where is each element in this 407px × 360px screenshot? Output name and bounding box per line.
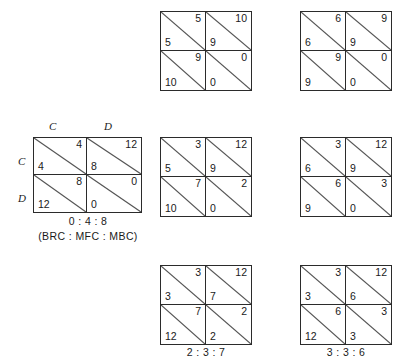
matrix-row: 4 4 12 8 — [34, 138, 141, 175]
cell-value-top-right: 3 — [335, 139, 341, 151]
matrix-row: 6 6 9 9 — [301, 12, 391, 51]
caption-ratio: 2 : 3 : 7 — [160, 346, 252, 358]
matrix-row: 5 5 10 9 — [161, 12, 251, 51]
matrix-grid: 4 4 12 8 8 12 — [33, 137, 142, 213]
cell-value-bottom-left: 3 — [165, 291, 171, 303]
matrix-cell: 5 5 — [161, 12, 206, 51]
matrix-row: 7 10 2 0 — [161, 177, 251, 216]
cell-value-top-right: 12 — [375, 267, 387, 279]
matrix-cell: 3 3 — [161, 266, 206, 305]
cell-value-top-right: 9 — [381, 13, 387, 25]
matrix-cell: 0 0 — [206, 51, 251, 90]
cell-value-bottom-left: 9 — [305, 77, 311, 89]
matrix-middle-middle: 3 5 12 9 7 10 — [160, 137, 252, 217]
matrix-grid: 3 3 12 6 6 12 — [300, 265, 392, 345]
matrix-cell: 3 3 — [301, 266, 346, 305]
row-label-d: D — [18, 192, 26, 204]
row-label-c: C — [18, 155, 25, 167]
cell-value-top-right: 3 — [195, 139, 201, 151]
matrix-cell: 12 9 — [346, 138, 391, 177]
cell-value-bottom-left: 0 — [210, 77, 216, 89]
cell-value-bottom-left: 3 — [305, 291, 311, 303]
cell-value-bottom-left: 3 — [350, 331, 356, 343]
cell-value-top-right: 10 — [235, 13, 247, 25]
matrix-row: 3 6 12 9 — [301, 138, 391, 177]
cell-value-top-right: 2 — [241, 178, 247, 190]
cell-value-top-right: 6 — [335, 13, 341, 25]
cell-value-top-right: 9 — [335, 52, 341, 64]
matrix-top-middle: 5 5 10 9 9 10 — [160, 11, 252, 91]
matrix-row: 6 12 3 3 — [301, 305, 391, 344]
matrix-cell: 12 8 — [87, 138, 141, 175]
cell-value-top-right: 12 — [125, 139, 137, 151]
cell-value-bottom-left: 6 — [305, 37, 311, 49]
matrix-cell: 6 6 — [301, 12, 346, 51]
figure-canvas: C D C D 4 4 12 8 — [0, 0, 407, 360]
matrix-bottom-right: 3 3 12 6 6 12 — [300, 265, 392, 345]
matrix-row: 9 9 0 0 — [301, 51, 391, 90]
cell-value-bottom-left: 9 — [210, 37, 216, 49]
cell-value-top-right: 8 — [76, 176, 82, 188]
matrix-cell: 7 10 — [161, 177, 206, 216]
matrix-cell: 9 9 — [301, 51, 346, 90]
cell-value-top-right: 6 — [335, 178, 341, 190]
cell-value-top-right: 9 — [195, 52, 201, 64]
matrix-cell: 0 0 — [346, 51, 391, 90]
matrix-cell: 7 12 — [161, 305, 206, 344]
cell-value-top-right: 3 — [335, 267, 341, 279]
matrix-cell: 10 9 — [206, 12, 251, 51]
column-label-d: D — [104, 120, 112, 132]
cell-value-top-right: 4 — [76, 139, 82, 151]
cell-value-top-right: 2 — [241, 306, 247, 318]
cell-value-bottom-left: 12 — [305, 331, 317, 343]
cell-value-top-right: 0 — [381, 52, 387, 64]
cell-value-top-right: 3 — [381, 306, 387, 318]
cell-value-top-right: 6 — [335, 306, 341, 318]
cell-value-bottom-left: 0 — [91, 199, 97, 211]
matrix-row: 6 9 3 0 — [301, 177, 391, 216]
matrix-grid: 5 5 10 9 9 10 — [160, 11, 252, 91]
matrix-cell: 6 12 — [301, 305, 346, 344]
matrix-cell: 3 6 — [301, 138, 346, 177]
cell-value-bottom-left: 4 — [38, 161, 44, 173]
matrix-row: 3 3 12 7 — [161, 266, 251, 305]
cell-value-bottom-left: 0 — [210, 203, 216, 215]
caption-ratio: 0 : 4 : 8 — [33, 215, 143, 227]
matrix-row: 7 12 2 2 — [161, 305, 251, 344]
matrix-cell: 3 0 — [346, 177, 391, 216]
matrix-row: 3 3 12 6 — [301, 266, 391, 305]
matrix-row: 3 5 12 9 — [161, 138, 251, 177]
cell-value-bottom-left: 9 — [305, 203, 311, 215]
cell-value-top-right: 0 — [131, 176, 137, 188]
matrix-cell: 2 0 — [206, 177, 251, 216]
matrix-top-right: 6 6 9 9 9 9 — [300, 11, 392, 91]
cell-value-top-right: 7 — [195, 178, 201, 190]
matrix-cell: 3 5 — [161, 138, 206, 177]
matrix-cell: 9 10 — [161, 51, 206, 90]
column-label-c: C — [49, 120, 56, 132]
cell-value-bottom-left: 10 — [165, 77, 177, 89]
cell-value-bottom-left: 0 — [350, 77, 356, 89]
matrix-cell: 0 0 — [87, 175, 141, 212]
cell-value-bottom-left: 5 — [165, 37, 171, 49]
matrix-middle-right: 3 6 12 9 6 9 — [300, 137, 392, 217]
matrix-cell: 12 9 — [206, 138, 251, 177]
matrix-cell: 8 12 — [34, 175, 87, 212]
matrix-grid: 6 6 9 9 9 9 — [300, 11, 392, 91]
cell-value-bottom-left: 9 — [210, 163, 216, 175]
matrix-grid: 3 6 12 9 6 9 — [300, 137, 392, 217]
cell-value-top-right: 5 — [195, 13, 201, 25]
cell-value-bottom-left: 6 — [350, 291, 356, 303]
cell-value-top-right: 12 — [235, 267, 247, 279]
cell-value-top-right: 3 — [381, 178, 387, 190]
cell-value-top-right: 12 — [375, 139, 387, 151]
matrix-row: 8 12 0 0 — [34, 175, 141, 212]
cell-value-top-right: 7 — [195, 306, 201, 318]
cell-value-bottom-left: 12 — [38, 199, 50, 211]
cell-value-top-right: 12 — [235, 139, 247, 151]
cell-value-top-right: 0 — [241, 52, 247, 64]
caption-legend: (BRC : MFC : MBC) — [33, 230, 143, 242]
matrix-cell: 6 9 — [301, 177, 346, 216]
cell-value-bottom-left: 5 — [165, 163, 171, 175]
cell-value-bottom-left: 6 — [305, 163, 311, 175]
